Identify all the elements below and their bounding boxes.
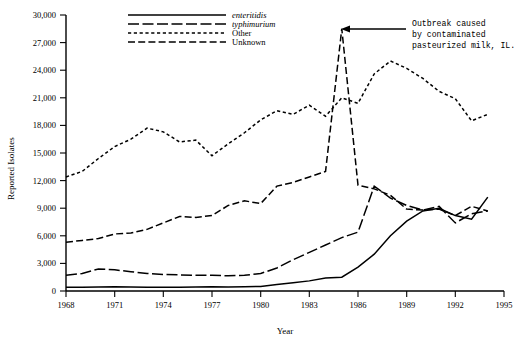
x-tick-label: 1992 (447, 300, 464, 310)
y-tick-label: 27,000 (33, 38, 56, 48)
x-tick-label: 1968 (58, 300, 75, 310)
y-axis-title: Reported Isolates (6, 137, 16, 200)
chart-svg: 0 3,000 6,000 9,000 12,000 15,000 18,000… (0, 0, 523, 346)
y-tick-label: 9,000 (37, 203, 56, 213)
x-tick-label: 1983 (301, 300, 318, 310)
y-tick-label: 0 (52, 286, 56, 296)
legend-label-unknown: Unknown (232, 37, 266, 47)
y-tick-label: 21,000 (33, 93, 56, 103)
series-group (66, 29, 488, 288)
y-tick-label: 15,000 (33, 148, 56, 158)
x-tick-label: 1974 (155, 300, 173, 310)
y-axis-ticks: 0 3,000 6,000 9,000 12,000 15,000 18,000… (33, 10, 66, 296)
x-tick-label: 1995 (496, 300, 513, 310)
series-line-other (66, 61, 488, 177)
series-line-enteritidis (66, 197, 488, 287)
y-tick-label: 24,000 (33, 65, 56, 75)
y-tick-label: 18,000 (33, 120, 56, 130)
x-tick-label: 1986 (350, 300, 367, 310)
series-line-typhimurium (66, 186, 488, 276)
x-tick-label: 1980 (252, 300, 269, 310)
x-tick-label: 1971 (106, 300, 123, 310)
y-tick-label: 6,000 (37, 231, 56, 241)
annotation-line-2: by contaminated (412, 30, 486, 39)
y-tick-label: 12,000 (33, 176, 56, 186)
chart-legend: enteritidis typhimurium Other Unknown (128, 10, 275, 47)
x-axis-ticks: 1968 1971 1974 1977 1980 1983 1986 1989 … (58, 291, 513, 310)
y-tick-label: 30,000 (33, 10, 56, 20)
x-axis-title: Year (277, 326, 294, 336)
annotation-line-1: Outbreak caused (412, 19, 486, 28)
x-tick-label: 1989 (398, 300, 415, 310)
annotation-line-3: pasteurized milk, IL. (412, 41, 515, 50)
y-tick-label: 3,000 (37, 258, 56, 268)
x-tick-label: 1977 (204, 300, 221, 310)
axes (66, 15, 504, 291)
chart-figure: 0 3,000 6,000 9,000 12,000 15,000 18,000… (0, 0, 523, 346)
outbreak-annotation: Outbreak caused by contaminated pasteuri… (341, 19, 515, 50)
